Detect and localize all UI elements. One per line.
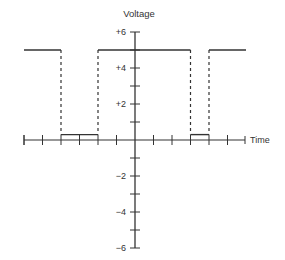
y-tick-label: −6 [116, 243, 126, 253]
axes: +6+4+2−2−4−6 [24, 27, 245, 253]
y-tick-label: −2 [116, 171, 126, 181]
y-tick-label: +4 [116, 63, 126, 73]
y-tick-label: −4 [116, 207, 126, 217]
y-axis-label: Voltage [123, 8, 155, 19]
voltage-time-chart: +6+4+2−2−4−6 Voltage Time [0, 0, 285, 260]
y-tick-label: +6 [116, 27, 126, 37]
y-tick-label: +2 [116, 99, 126, 109]
x-axis-label: Time [250, 135, 270, 145]
